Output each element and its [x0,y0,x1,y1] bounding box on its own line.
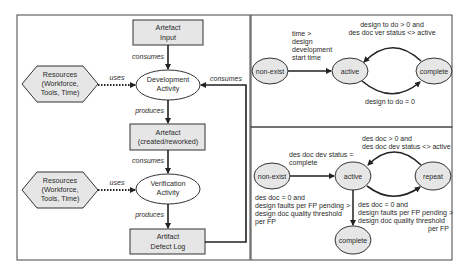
svg-text:start time: start time [292,54,321,61]
svg-text:design doc quality threshold: design doc quality threshold [255,210,342,218]
svg-text:design: design [292,38,313,46]
transition-label-repeat-active: des doc > 0 and des doc dev status <> ac… [362,135,451,150]
svg-text:design faults per FP pending >: design faults per FP pending > [358,209,453,217]
svg-text:design faults per FP pending >: design faults per FP pending > [255,202,350,210]
resources-1-line3: Tools, Time) [41,88,80,97]
produces-artefact-label: produces [134,107,164,115]
artefact-created-line2: (created/reworked) [138,137,198,146]
verif-activity-line1: Verification [150,179,185,188]
svg-text:design doc quality threshold: design doc quality threshold [358,217,445,225]
uses-1-label: uses [110,74,125,81]
consumes-artefact-label: consumes [132,157,164,164]
resources-node-2: Resources (Workforce, Tools, Time) [22,172,98,208]
svg-text:time >: time > [292,30,311,37]
state-non-exist-label: non-exist [258,173,286,180]
defect-log-node: Artifact Defect Log [130,229,205,254]
verification-activity-node: Verification Activity [136,174,200,204]
dev-activity-line2: Activity [157,84,180,93]
svg-text:des doc = 0 and: des doc = 0 and [255,194,305,201]
resources-1-line2: (Workforce, [41,79,78,88]
artefact-input-line1: Artefact [156,23,181,32]
svg-text:des doc dev status =: des doc dev status = [289,151,353,158]
state-active-top: active [332,58,368,84]
resources-2-line3: Tools, Time) [41,194,80,203]
state-repeat-bottom: repeat [415,162,451,190]
svg-text:des doc ver status <> active: des doc ver status <> active [348,29,435,36]
transition-label-active-complete: design to do = 0 [365,98,415,106]
verif-activity-line2: Activity [157,188,180,197]
resources-2-line2: (Workforce, [41,185,78,194]
bottom-right-panel: non-exist active repeat complete des doc… [251,127,453,260]
diagram-canvas: Artefact Input consumes Development Acti… [0,0,470,272]
svg-text:per FP: per FP [255,218,276,226]
transition-repeat-active [368,152,421,165]
artefact-input-line2: Input [160,33,176,42]
left-panel: Artefact Input consumes Development Acti… [17,15,250,260]
top-right-panel: non-exist active complete time > design … [251,15,452,127]
state-active-bottom: active [335,162,371,190]
svg-text:des doc dev status <> active: des doc dev status <> active [362,143,451,150]
artefact-input-node: Artefact Input [133,20,203,45]
state-non-exist-bottom: non-exist [254,163,290,189]
transition-complete-active [364,48,421,62]
defect-log-line2: Defect Log [151,242,186,251]
transition-active-repeat [367,186,420,196]
defect-log-line1: Artifact [157,232,179,241]
development-activity-node: Development Activity [136,70,200,100]
artefact-created-node: Artefact (created/reworked) [130,124,205,150]
svg-text:des doc = 0 and: des doc = 0 and [358,201,408,208]
consumes-log-label: consumes [210,75,242,82]
produces-log-label: produces [134,211,164,219]
transition-active-complete [362,81,420,94]
state-non-exist-label: non-exist [256,68,284,75]
state-active-label: active [344,173,362,180]
state-complete-bottom: complete [335,226,371,254]
state-repeat-label: repeat [423,173,443,181]
consumes-input-label: consumes [132,53,164,60]
state-complete-label: complete [339,237,368,245]
transition-label-complete-active: design to do > 0 and des doc ver status … [348,21,435,36]
state-complete-top: complete [416,58,452,84]
state-active-label: active [341,68,359,75]
transition-label-active-complete-bottom: des doc = 0 and design faults per FP pen… [255,194,350,226]
artefact-created-line1: Artefact [156,128,181,137]
uses-2-label: uses [110,179,125,186]
svg-text:per FP: per FP [428,225,449,233]
resources-1-line1: Resources [43,70,78,79]
state-non-exist-top: non-exist [252,58,288,84]
dev-activity-line1: Development [147,75,189,84]
svg-text:development: development [292,46,332,54]
consumes-log-arrow [201,85,246,242]
state-complete-label: complete [420,68,449,76]
transition-label-nonexist-active: time > design development start time [292,30,332,61]
svg-text:des doc > 0 and: des doc > 0 and [362,135,412,142]
svg-text:design to do > 0 and: design to do > 0 and [360,21,424,29]
transition-label-active-repeat: des doc = 0 and design faults per FP pen… [358,201,453,233]
svg-text:complete: complete [289,159,318,167]
resources-node-1: Resources (Workforce, Tools, Time) [22,66,98,102]
resources-2-line1: Resources [43,176,78,185]
